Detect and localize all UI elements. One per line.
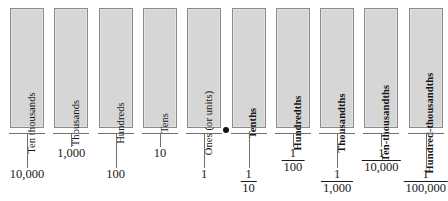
fraction-denominator-thousandths: 1,000 bbox=[321, 182, 353, 195]
place-column-ten-thousandths: Ten-thousandths110,000 bbox=[364, 0, 398, 201]
place-value-hundred-thousandths: 1100,000 bbox=[403, 168, 448, 195]
fraction-tenths: 110 bbox=[240, 168, 257, 195]
place-box-hundred-thousandths: Hundred-thousandths bbox=[409, 8, 443, 128]
stem-tenths bbox=[249, 133, 250, 168]
place-column-hundreds: Hundreds100 bbox=[99, 0, 133, 201]
place-value-thousandths: 11,000 bbox=[321, 168, 353, 195]
fraction-denominator-hundredths: 100 bbox=[281, 161, 304, 174]
fraction-numerator-hundred-thousandths: 1 bbox=[403, 168, 448, 182]
place-box-hundreds: Hundreds bbox=[99, 8, 133, 128]
stem-ten-thousandths bbox=[381, 133, 382, 147]
fraction-hundredths: 1100 bbox=[281, 147, 304, 174]
integer-value-tens: 10 bbox=[154, 146, 167, 160]
integer-value-ones: 1 bbox=[201, 167, 207, 181]
fraction-numerator-tenths: 1 bbox=[240, 168, 257, 182]
fraction-denominator-hundred-thousandths: 100,000 bbox=[403, 182, 448, 195]
place-box-thousandths: Thousandths bbox=[320, 8, 354, 128]
fraction-numerator-ten-thousandths: 1 bbox=[362, 147, 400, 161]
place-column-tenths: Tenths110 bbox=[232, 0, 266, 201]
stem-tens bbox=[160, 133, 161, 147]
place-box-ones: Ones (or units) bbox=[187, 8, 221, 128]
place-value-tens: 10 bbox=[154, 147, 167, 160]
place-value-ten-thousandths: 110,000 bbox=[362, 147, 400, 174]
place-box-tenths: Tenths bbox=[232, 8, 266, 128]
place-column-ten-thousands: Ten thousands10,000 bbox=[10, 0, 44, 201]
stem-hundred-thousandths bbox=[426, 133, 427, 168]
stem-ten-thousands bbox=[27, 133, 28, 168]
place-box-tens: Tens bbox=[143, 8, 177, 128]
fraction-denominator-tenths: 10 bbox=[240, 182, 257, 195]
decimal-point-dot bbox=[223, 127, 229, 133]
integer-value-hundreds: 100 bbox=[106, 167, 125, 181]
place-value-chart: Ten thousands10,000Thousands1,000Hundred… bbox=[0, 0, 448, 201]
place-column-thousands: Thousands1,000 bbox=[54, 0, 88, 201]
place-column-tens: Tens10 bbox=[143, 0, 177, 201]
place-column-ones: Ones (or units)1 bbox=[187, 0, 221, 201]
fraction-ten-thousandths: 110,000 bbox=[362, 147, 400, 174]
place-column-hundredths: Hundredths1100 bbox=[276, 0, 310, 201]
fraction-numerator-hundredths: 1 bbox=[281, 147, 304, 161]
place-value-ten-thousands: 10,000 bbox=[10, 168, 44, 181]
stem-thousandths bbox=[337, 133, 338, 168]
stem-thousands bbox=[71, 133, 72, 147]
stem-ones bbox=[204, 133, 205, 168]
place-value-tenths: 110 bbox=[240, 168, 257, 195]
place-column-thousandths: Thousandths11,000 bbox=[320, 0, 354, 201]
fraction-hundred-thousandths: 1100,000 bbox=[403, 168, 448, 195]
place-column-hundred-thousandths: Hundred-thousandths1100,000 bbox=[409, 0, 443, 201]
integer-value-ten-thousands: 10,000 bbox=[10, 167, 44, 181]
place-box-ten-thousandths: Ten-thousandths bbox=[364, 8, 398, 128]
place-value-hundredths: 1100 bbox=[281, 147, 304, 174]
place-value-thousands: 1,000 bbox=[57, 147, 85, 160]
place-box-hundredths: Hundredths bbox=[276, 8, 310, 128]
place-box-ten-thousands: Ten thousands bbox=[10, 8, 44, 128]
fraction-numerator-thousandths: 1 bbox=[321, 168, 353, 182]
stem-hundredths bbox=[293, 133, 294, 147]
fraction-denominator-ten-thousandths: 10,000 bbox=[362, 161, 400, 174]
place-value-ones: 1 bbox=[201, 168, 207, 181]
integer-value-thousands: 1,000 bbox=[57, 146, 85, 160]
fraction-thousandths: 11,000 bbox=[321, 168, 353, 195]
stem-hundreds bbox=[116, 133, 117, 168]
place-value-hundreds: 100 bbox=[106, 168, 125, 181]
place-box-thousands: Thousands bbox=[54, 8, 88, 128]
